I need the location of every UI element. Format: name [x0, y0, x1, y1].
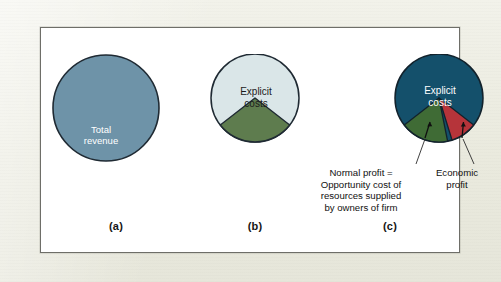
panel-b: Explicit costs Accounting Profit (b)	[191, 28, 319, 252]
panel-caption-c: (c)	[319, 220, 461, 232]
figure-root: Total revenue (a) Explicit costs Account…	[0, 0, 501, 282]
total-revenue-pie	[46, 54, 186, 174]
figure-plate: Total revenue (a) Explicit costs Account…	[40, 27, 460, 253]
panel-caption-a: (a)	[41, 220, 191, 232]
accounting-profit-pie	[210, 54, 330, 174]
economic-profit-leader-line	[463, 139, 474, 164]
panel-caption-b: (b)	[191, 220, 319, 232]
panel-a: Total revenue (a)	[41, 28, 191, 252]
economic-profit-callout: Economic profit	[425, 167, 489, 190]
panel-c: Explicit costs Normal profit = Opportuni…	[319, 28, 461, 252]
normal-profit-leader-line	[416, 139, 425, 164]
total-revenue-circle	[53, 55, 159, 161]
normal-profit-callout: Normal profit = Opportunity cost of reso…	[297, 167, 425, 214]
